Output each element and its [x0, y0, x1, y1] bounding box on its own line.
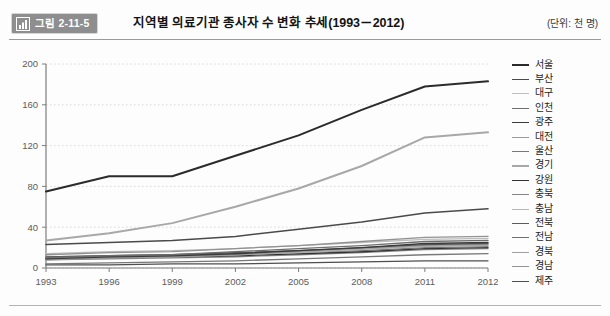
legend-item-제주[interactable]: 제주 [512, 274, 604, 288]
legend-swatch [512, 237, 529, 238]
legend-swatch [512, 108, 529, 109]
legend-swatch [512, 122, 529, 123]
legend-swatch [512, 180, 529, 181]
legend-label: 충북 [535, 189, 553, 200]
figure-number-badge: 그림 2-11-5 [12, 14, 97, 33]
y-tick-label: 0 [33, 262, 38, 273]
legend-item-경기[interactable]: 경기 [512, 159, 604, 173]
legend-swatch [512, 209, 529, 210]
y-tick-label: 120 [22, 140, 38, 151]
bar-chart-icon [16, 17, 30, 31]
legend-item-울산[interactable]: 울산 [512, 144, 604, 158]
y-tick-label: 80 [27, 181, 38, 192]
legend-swatch [512, 151, 529, 152]
figure-header: 그림 2-11-5 지역별 의료기관 종사자 수 변화 추세(1993－2012… [0, 0, 610, 40]
legend-item-부산[interactable]: 부산 [512, 72, 604, 86]
legend-label: 경남 [535, 261, 553, 272]
legend-label: 부산 [535, 74, 553, 85]
legend-label: 강원 [535, 175, 553, 186]
figure-title: 지역별 의료기관 종사자 수 변화 추세(1993－2012) [133, 13, 404, 33]
legend-item-전북[interactable]: 전북 [512, 216, 604, 230]
legend-label: 광주 [535, 117, 553, 128]
legend-swatch [512, 194, 529, 195]
x-axis-tick-labels: 19931996199920022005200820112012 [35, 276, 498, 287]
legend-label: 서울 [535, 60, 553, 71]
x-tick-label: 2012 [477, 276, 498, 287]
legend-label: 울산 [535, 146, 553, 157]
legend-label: 제주 [535, 276, 553, 287]
x-tick-label: 1996 [99, 276, 120, 287]
legend-item-서울[interactable]: 서울 [512, 58, 604, 72]
legend-swatch [512, 252, 529, 253]
y-axis-tick-labels: 04080120160200 [22, 58, 38, 273]
header-divider [9, 39, 601, 40]
x-tick-label: 2011 [415, 276, 435, 287]
legend-swatch [512, 165, 529, 167]
figure-bottom-divider [9, 305, 601, 306]
legend-swatch [512, 281, 529, 282]
legend-item-광주[interactable]: 광주 [512, 116, 604, 130]
figure-number-label: 그림 2-11-5 [35, 18, 90, 30]
line-chart: 04080120160200 1993199619992002200520082… [0, 44, 498, 296]
legend-item-인천[interactable]: 인천 [512, 101, 604, 115]
x-axis [46, 268, 488, 272]
legend-label: 경기 [535, 160, 553, 171]
y-tick-label: 40 [27, 222, 38, 233]
chart-legend: 서울부산대구인천광주대전울산경기강원충북충남전북전남경북경남제주 [512, 58, 604, 288]
legend-swatch [512, 137, 529, 138]
legend-label: 대전 [535, 132, 553, 143]
y-axis [42, 64, 46, 268]
legend-label: 충남 [535, 204, 553, 215]
legend-label: 전북 [535, 218, 553, 229]
chart-series-lines [46, 81, 488, 265]
x-tick-label: 2002 [225, 276, 246, 287]
legend-label: 대구 [535, 88, 553, 99]
legend-swatch [512, 64, 529, 66]
legend-label: 전남 [535, 232, 553, 243]
figure-container: 그림 2-11-5 지역별 의료기관 종사자 수 변화 추세(1993－2012… [0, 0, 610, 316]
legend-item-충북[interactable]: 충북 [512, 188, 604, 202]
x-tick-label: 2005 [288, 276, 309, 287]
legend-label: 경북 [535, 247, 553, 258]
legend-swatch [512, 223, 529, 224]
series-line-서울 [46, 81, 488, 191]
legend-swatch [512, 266, 529, 267]
y-tick-label: 160 [22, 99, 38, 110]
legend-label: 인천 [535, 103, 553, 114]
x-tick-label: 1993 [35, 276, 56, 287]
legend-item-대구[interactable]: 대구 [512, 87, 604, 101]
legend-item-전남[interactable]: 전남 [512, 231, 604, 245]
y-tick-label: 200 [22, 58, 38, 69]
legend-item-경남[interactable]: 경남 [512, 259, 604, 273]
x-tick-label: 1999 [162, 276, 183, 287]
chart-plot-area: 04080120160200 1993199619992002200520082… [0, 44, 498, 296]
legend-item-충남[interactable]: 충남 [512, 202, 604, 216]
legend-swatch [512, 79, 529, 80]
legend-item-강원[interactable]: 강원 [512, 173, 604, 187]
legend-item-대전[interactable]: 대전 [512, 130, 604, 144]
x-tick-label: 2008 [351, 276, 372, 287]
figure-unit-note: (단위: 천 명) [547, 16, 598, 32]
legend-swatch [512, 93, 529, 94]
legend-item-경북[interactable]: 경북 [512, 245, 604, 259]
